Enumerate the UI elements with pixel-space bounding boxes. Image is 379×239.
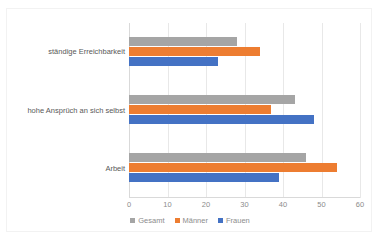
x-tick-label: 0 — [127, 200, 131, 209]
legend-item[interactable]: Männer — [175, 216, 208, 225]
bar-group — [129, 36, 360, 69]
bar-frauen[interactable] — [129, 115, 314, 124]
legend-swatch-icon — [130, 218, 135, 223]
x-tick-label: 10 — [163, 200, 171, 209]
legend-item[interactable]: Frauen — [218, 216, 250, 225]
bar-group — [129, 152, 360, 185]
category-label: Arbeit — [13, 164, 125, 173]
chart-container: ständige Erreichbarkeithohe Ansprüch an … — [6, 8, 372, 232]
x-tick-label: 30 — [240, 200, 248, 209]
legend-item[interactable]: Gesamt — [130, 216, 164, 225]
bar-männer[interactable] — [129, 163, 337, 172]
category-label: hohe Ansprüch an sich selbst — [13, 106, 125, 115]
legend-swatch-icon — [218, 218, 223, 223]
bar-frauen[interactable] — [129, 173, 279, 182]
bar-gesamt[interactable] — [129, 153, 306, 162]
category-label: ständige Erreichbarkeit — [13, 47, 125, 56]
chart-title-clipped — [0, 0, 379, 7]
gridline-60 — [360, 23, 361, 198]
legend-label: Männer — [183, 216, 208, 225]
x-tick-label: 50 — [317, 200, 325, 209]
y-axis-category-labels: ständige Erreichbarkeithohe Ansprüch an … — [13, 23, 127, 198]
bar-männer[interactable] — [129, 105, 271, 114]
x-axis-line — [129, 197, 360, 198]
legend-label: Frauen — [226, 216, 250, 225]
legend-swatch-icon — [175, 218, 180, 223]
bar-gesamt[interactable] — [129, 37, 237, 46]
legend-label: Gesamt — [138, 216, 164, 225]
bar-frauen[interactable] — [129, 57, 218, 66]
bar-männer[interactable] — [129, 47, 260, 56]
bar-gesamt[interactable] — [129, 95, 295, 104]
chart-legend: GesamtMännerFrauen — [7, 216, 373, 225]
bar-group — [129, 94, 360, 127]
x-tick-label: 40 — [279, 200, 287, 209]
bar-series-container — [129, 23, 360, 198]
x-tick-label: 60 — [356, 200, 364, 209]
plot-area — [129, 23, 360, 198]
x-axis-tick-labels: 0102030405060 — [129, 200, 360, 212]
x-tick-label: 20 — [202, 200, 210, 209]
